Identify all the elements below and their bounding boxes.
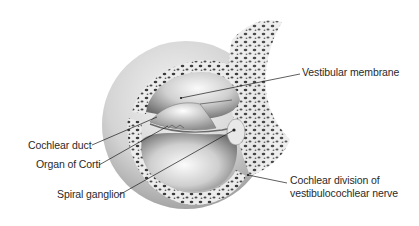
label-cochlear-division-line2: vestibulocochlear nerve bbox=[290, 187, 398, 200]
label-vestibular-membrane: Vestibular membrane bbox=[302, 66, 399, 79]
spiral-ganglion-structure bbox=[227, 119, 245, 145]
label-cochlear-duct: Cochlear duct bbox=[28, 139, 91, 152]
label-cochlear-division: Cochlear division of vestibulocochlear n… bbox=[290, 174, 398, 200]
leader-cochlear-division bbox=[248, 175, 287, 183]
label-spiral-ganglion: Spiral ganglion bbox=[57, 188, 125, 201]
label-organ-of-corti: Organ of Corti bbox=[36, 158, 101, 171]
label-cochlear-division-line1: Cochlear division of bbox=[290, 174, 398, 187]
